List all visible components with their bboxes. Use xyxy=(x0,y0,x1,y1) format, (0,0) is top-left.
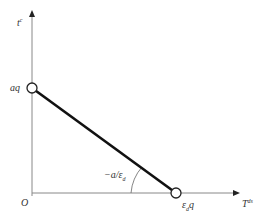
slope-angle-arc xyxy=(131,167,142,193)
diagram-canvas xyxy=(0,0,266,216)
x-axis-arrow-icon xyxy=(233,190,240,196)
y-axis-label: tc xyxy=(17,17,22,28)
slope-label: −a/εd xyxy=(104,170,125,182)
x-intercept-label: εdq xyxy=(182,200,194,212)
y-intercept-label: aq xyxy=(10,83,20,93)
y-intercept-point xyxy=(27,83,37,93)
y-axis-arrow-icon xyxy=(29,10,35,17)
origin-label: O xyxy=(21,198,28,208)
x-axis-label: Tds xyxy=(242,198,253,209)
x-intercept-point xyxy=(171,188,181,198)
